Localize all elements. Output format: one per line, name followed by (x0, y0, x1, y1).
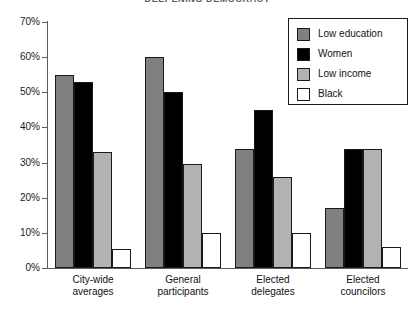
bar (235, 149, 254, 268)
x-axis-category-label-line2: councilors (308, 286, 415, 298)
chart-legend: Low educationWomenLow incomeBlack (288, 18, 408, 105)
x-axis-category-label-line1: Elected (308, 274, 415, 286)
y-axis-label: 30% (2, 158, 40, 168)
legend-item-label: Low education (318, 29, 383, 39)
bar (93, 152, 112, 268)
bar-group (145, 22, 221, 268)
legend-swatch-low-income (297, 68, 310, 81)
legend-item: Women (297, 44, 407, 64)
legend-swatch-black (297, 88, 310, 101)
bar (74, 82, 93, 268)
bar (273, 177, 292, 268)
bar (183, 164, 202, 268)
bar (325, 208, 344, 268)
bar (254, 110, 273, 268)
bar-chart-figure: 0%10%20%30%40%50%60%70% City-wideaverage… (0, 0, 415, 315)
legend-swatch-low-education (297, 28, 310, 41)
x-axis-line (47, 268, 408, 269)
legend-item: Low income (297, 64, 407, 84)
bar (363, 149, 382, 268)
y-axis-label: 50% (2, 87, 40, 97)
bar (344, 149, 363, 268)
legend-item: Low education (297, 24, 407, 44)
bar (112, 249, 131, 268)
legend-item-label: Women (318, 49, 352, 59)
y-axis-label: 10% (2, 228, 40, 238)
bar-group (55, 22, 131, 268)
bar (292, 233, 311, 268)
y-axis-label: 0% (2, 263, 40, 273)
y-axis-tick (42, 268, 48, 269)
bar (164, 92, 183, 268)
legend-item: Black (297, 84, 407, 104)
legend-item-label: Low income (318, 69, 371, 79)
bar (382, 247, 401, 268)
x-axis-category-label: Electedcouncilors (308, 274, 415, 298)
bar (145, 57, 164, 268)
y-axis-label: 70% (2, 17, 40, 27)
bar (202, 233, 221, 268)
legend-item-label: Black (318, 89, 342, 99)
y-axis-label: 20% (2, 193, 40, 203)
bar (55, 75, 74, 268)
legend-swatch-women (297, 48, 310, 61)
y-axis-label: 40% (2, 122, 40, 132)
y-axis-label: 60% (2, 52, 40, 62)
